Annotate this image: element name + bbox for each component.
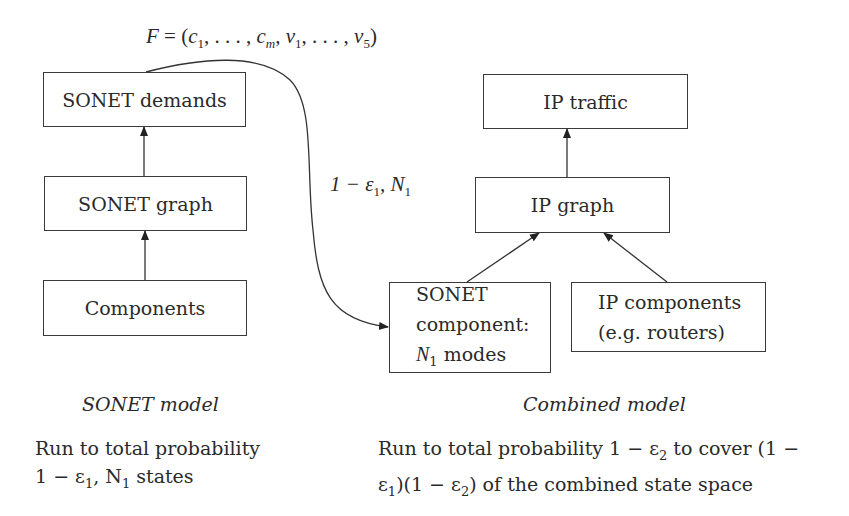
formula-nu: ν bbox=[286, 24, 295, 48]
desc-sub: 1 bbox=[122, 476, 130, 491]
ip-components-line1: IP components bbox=[598, 287, 741, 317]
desc-sub: 1 bbox=[85, 476, 93, 491]
sonet-demands-box: SONET demands bbox=[43, 72, 246, 127]
arrow-sonetcomp-to-ipgraph bbox=[467, 233, 539, 282]
edge-label-mid: , N bbox=[380, 172, 405, 196]
desc-text: )(1 − ε bbox=[396, 473, 461, 495]
ip-traffic-label: IP traffic bbox=[543, 91, 628, 113]
sonet-component-line3: N1 modes bbox=[416, 339, 506, 377]
components-box: Components bbox=[43, 280, 247, 336]
sonet-model-caption: SONET model bbox=[82, 393, 219, 415]
desc-sub: 2 bbox=[461, 484, 469, 499]
modes-text: modes bbox=[438, 343, 507, 365]
desc-text: 1 − ε bbox=[35, 465, 85, 487]
formula-sep: , . . . , bbox=[302, 24, 355, 48]
formula-close: ) bbox=[370, 24, 377, 48]
desc-text: ) of the combined state space bbox=[469, 473, 753, 495]
desc-text: , N bbox=[93, 465, 122, 487]
ip-graph-box: IP graph bbox=[475, 177, 670, 233]
sonet-component-box: SONET component: N1 modes bbox=[389, 282, 551, 373]
sonet-demands-label: SONET demands bbox=[62, 89, 227, 111]
ip-graph-label: IP graph bbox=[531, 194, 614, 216]
formula-F: F bbox=[146, 24, 159, 48]
arrow-ipcomp-to-ipgraph bbox=[604, 233, 667, 282]
edge-label-sub: 1 bbox=[404, 184, 411, 199]
ip-components-line2: (e.g. routers) bbox=[598, 317, 725, 347]
combined-model-caption: Combined model bbox=[523, 393, 686, 415]
sonet-model-description: Run to total probability 1 − ε1, N1 stat… bbox=[35, 434, 260, 498]
n-sub: 1 bbox=[429, 353, 437, 368]
combined-model-description: Run to total probability 1 − ε2 to cover… bbox=[378, 434, 799, 506]
formula-sep: , bbox=[275, 24, 286, 48]
formula-sub: m bbox=[266, 36, 275, 51]
desc-text: ε bbox=[378, 473, 388, 495]
combined-desc-line2: ε1)(1 − ε2) of the combined state space bbox=[378, 470, 799, 506]
sonet-desc-line2: 1 − ε1, N1 states bbox=[35, 462, 260, 498]
sonet-desc-line1: Run to total probability bbox=[35, 434, 260, 462]
sonet-component-line1: SONET bbox=[416, 279, 488, 309]
formula-cm: c bbox=[257, 24, 266, 48]
formula-eq: = ( bbox=[159, 24, 188, 48]
formula-c: c bbox=[188, 24, 197, 48]
edge-label-prefix: 1 − ε bbox=[330, 172, 373, 196]
desc-text: Run to total probability 1 − ε bbox=[378, 437, 659, 459]
formula-sep: , . . . , bbox=[204, 24, 257, 48]
n-symbol: N bbox=[416, 343, 429, 365]
ip-components-box: IP components (e.g. routers) bbox=[571, 282, 766, 352]
desc-sub: 1 bbox=[388, 484, 396, 499]
formula-label: F = (c1, . . . , cm, ν1, . . . , ν5) bbox=[146, 24, 377, 52]
desc-text: to cover (1 − bbox=[667, 437, 799, 459]
sonet-graph-box: SONET graph bbox=[44, 176, 247, 231]
edge-label: 1 − ε1, N1 bbox=[330, 172, 411, 200]
components-label: Components bbox=[85, 297, 206, 319]
formula-nu5: ν bbox=[354, 24, 363, 48]
ip-traffic-box: IP traffic bbox=[483, 74, 688, 129]
sonet-graph-label: SONET graph bbox=[78, 193, 213, 215]
sonet-component-line2: component: bbox=[416, 309, 529, 339]
combined-desc-line1: Run to total probability 1 − ε2 to cover… bbox=[378, 434, 799, 470]
desc-text: states bbox=[130, 465, 193, 487]
